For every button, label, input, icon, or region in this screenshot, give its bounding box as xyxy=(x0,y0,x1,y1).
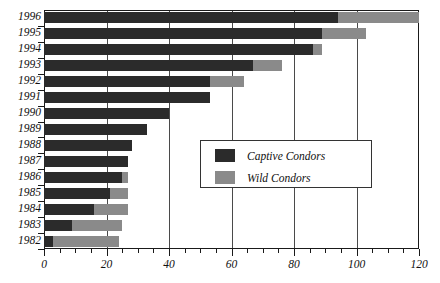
y-tick-label-1991: 1991 xyxy=(1,91,41,102)
y-tick-label-1995: 1995 xyxy=(1,27,41,38)
y-tick-label-1992: 1992 xyxy=(1,75,41,86)
bar-segment-1995-captive xyxy=(44,28,322,39)
bar-segment-1986-wild xyxy=(122,172,128,183)
bar-segment-1992-captive xyxy=(44,76,210,87)
bar-row xyxy=(44,12,419,23)
x-tick-label-120: 120 xyxy=(410,258,427,270)
x-tick-90 xyxy=(325,249,326,253)
x-tick-80 xyxy=(294,249,295,256)
bar-segment-1984-wild xyxy=(94,204,128,215)
bar-segment-1983-captive xyxy=(44,220,72,231)
bar-row xyxy=(44,220,419,231)
y-tick-label-1996: 1996 xyxy=(1,11,41,22)
bar-row xyxy=(44,60,419,71)
x-tick-70 xyxy=(263,249,264,253)
bar-segment-1992-wild xyxy=(210,76,244,87)
bar-segment-1996-wild xyxy=(338,12,419,23)
x-tick-label-60: 60 xyxy=(226,258,238,270)
x-tick-label-0: 0 xyxy=(41,258,47,270)
bar-row xyxy=(44,188,419,199)
y-tick-label-1993: 1993 xyxy=(1,59,41,70)
legend-swatch-icon xyxy=(215,171,235,184)
x-tick-35 xyxy=(153,249,154,253)
x-tick-30 xyxy=(138,249,139,253)
x-tick-65 xyxy=(247,249,248,253)
x-tick-0 xyxy=(44,249,45,256)
bars-layer xyxy=(44,10,419,249)
x-tick-label-20: 20 xyxy=(101,258,113,270)
x-tick-40 xyxy=(169,249,170,256)
x-tick-label-40: 40 xyxy=(163,258,175,270)
x-tick-25 xyxy=(122,249,123,253)
bar-segment-1984-captive xyxy=(44,204,94,215)
legend: Captive CondorsWild Condors xyxy=(200,140,372,188)
x-tick-15 xyxy=(91,249,92,253)
bar-row xyxy=(44,28,419,39)
x-tick-75 xyxy=(278,249,279,253)
x-tick-100 xyxy=(357,249,358,256)
legend-label: Captive Condors xyxy=(247,150,325,162)
x-tick-45 xyxy=(185,249,186,253)
x-tick-20 xyxy=(107,249,108,256)
y-tick-label-1982: 1982 xyxy=(1,235,41,246)
bar-row xyxy=(44,236,419,247)
bar-segment-1985-captive xyxy=(44,188,110,199)
condor-population-chart: 1996199519941993199219911990198919881987… xyxy=(0,0,440,283)
bar-row xyxy=(44,108,419,119)
bar-segment-1993-wild xyxy=(253,60,281,71)
bar-segment-1990-captive xyxy=(44,108,169,119)
bar-row xyxy=(44,92,419,103)
y-tick-label-1994: 1994 xyxy=(1,43,41,54)
legend-label: Wild Condors xyxy=(247,172,311,184)
y-tick-label-1987: 1987 xyxy=(1,155,41,166)
bar-row xyxy=(44,76,419,87)
bar-segment-1988-captive xyxy=(44,140,132,151)
bar-segment-1993-captive xyxy=(44,60,253,71)
bar-segment-1995-wild xyxy=(322,28,366,39)
x-tick-10 xyxy=(75,249,76,253)
legend-item-wild-condors: Wild Condors xyxy=(215,171,311,184)
x-tick-120 xyxy=(419,249,420,256)
x-tick-115 xyxy=(403,249,404,253)
y-tick-label-1986: 1986 xyxy=(1,171,41,182)
bar-row xyxy=(44,204,419,215)
x-tick-50 xyxy=(200,249,201,253)
y-tick-label-1990: 1990 xyxy=(1,107,41,118)
y-tick-label-1984: 1984 xyxy=(1,203,41,214)
bar-segment-1989-captive xyxy=(44,124,147,135)
bar-row xyxy=(44,124,419,135)
x-tick-105 xyxy=(372,249,373,253)
bar-segment-1986-captive xyxy=(44,172,122,183)
bar-segment-1982-captive xyxy=(44,236,53,247)
x-tick-label-100: 100 xyxy=(348,258,365,270)
bar-segment-1983-wild xyxy=(72,220,122,231)
bar-segment-1987-captive xyxy=(44,156,128,167)
y-tick-label-1989: 1989 xyxy=(1,123,41,134)
x-tick-label-80: 80 xyxy=(288,258,300,270)
x-tick-5 xyxy=(60,249,61,253)
bar-row xyxy=(44,44,419,55)
bar-segment-1994-captive xyxy=(44,44,313,55)
bar-segment-1996-captive xyxy=(44,12,338,23)
bar-segment-1991-captive xyxy=(44,92,210,103)
x-tick-85 xyxy=(310,249,311,253)
y-axis-labels: 1996199519941993199219911990198919881987… xyxy=(0,10,41,249)
bar-segment-1985-wild xyxy=(110,188,129,199)
x-tick-60 xyxy=(232,249,233,256)
y-tick-label-1988: 1988 xyxy=(1,139,41,150)
y-tick-label-1985: 1985 xyxy=(1,187,41,198)
x-tick-110 xyxy=(388,249,389,253)
x-axis: 020406080100120 xyxy=(44,249,419,283)
legend-item-captive-condors: Captive Condors xyxy=(215,149,325,162)
y-tick-label-1983: 1983 xyxy=(1,219,41,230)
bar-segment-1982-wild xyxy=(53,236,119,247)
legend-swatch-icon xyxy=(215,149,235,162)
x-tick-55 xyxy=(216,249,217,253)
x-tick-95 xyxy=(341,249,342,253)
bar-segment-1994-wild xyxy=(313,44,322,55)
